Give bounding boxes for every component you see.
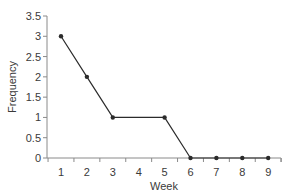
y-axis-label: Frequency [6,61,18,113]
data-point-marker [214,156,218,160]
x-tick-label: 4 [136,166,142,178]
x-tick-label: 9 [265,166,271,178]
x-tick-label: 6 [187,166,193,178]
data-point-marker [111,115,115,119]
x-tick-label: 2 [84,166,90,178]
x-tick-label: 3 [110,166,116,178]
data-point-marker [85,75,89,79]
y-tick-label: 3.5 [26,10,41,22]
y-tick-label: 3 [35,30,41,42]
data-point-marker [266,156,270,160]
data-point-marker [162,115,166,119]
x-tick-label: 5 [162,166,168,178]
line-chart: 00.511.522.533.5 123456789 Frequency Wee… [0,0,288,196]
y-tick-label: 2.5 [26,51,41,63]
x-axis: 123456789 [47,158,281,178]
y-tick-label: 2 [35,71,41,83]
x-tick-label: 8 [239,166,245,178]
data-point-marker [240,156,244,160]
y-tick-label: 0 [35,152,41,164]
data-series [59,34,271,160]
x-tick-label: 7 [213,166,219,178]
x-axis-label: Week [150,180,178,192]
data-point-marker [188,156,192,160]
series-line [61,36,268,158]
data-point-marker [59,34,63,38]
x-tick-label: 1 [58,166,64,178]
y-tick-label: 0.5 [26,132,41,144]
y-tick-label: 1.5 [26,91,41,103]
y-tick-label: 1 [35,111,41,123]
y-axis: 00.511.522.533.5 [26,10,47,164]
